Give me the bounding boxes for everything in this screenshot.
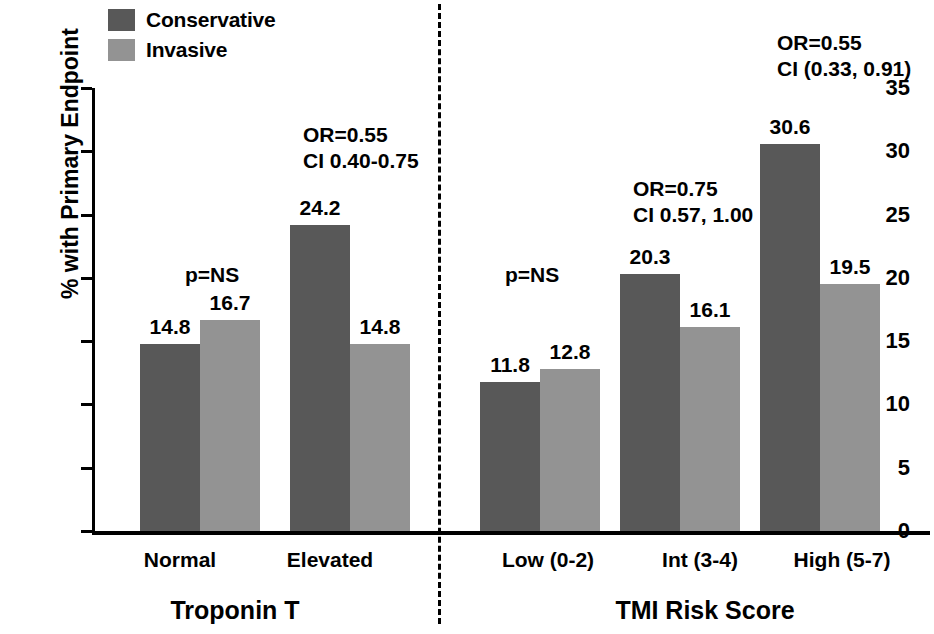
panel-divider [438, 4, 441, 624]
annotation-elevated-ci: CI 0.40-0.75 [303, 148, 419, 174]
y-tick-5 [81, 467, 92, 470]
y-tick-15 [81, 340, 92, 343]
y-tick-10 [81, 403, 92, 406]
bar-value-normal-invasive: 16.7 [188, 292, 272, 313]
category-label-normal: Normal [100, 548, 260, 572]
annotation-low: p=NS [505, 262, 559, 288]
bar-elevated-invasive [350, 344, 410, 531]
y-tick-25 [81, 214, 92, 217]
bar-high-invasive [820, 284, 880, 531]
bar-value-elevated-conservative: 24.2 [278, 197, 362, 218]
legend-item-invasive: Invasive [108, 38, 276, 62]
bar-normal-invasive [200, 320, 260, 531]
annotation-int-ci: CI 0.57, 1.00 [633, 202, 753, 228]
bar-normal-conservative [140, 344, 200, 531]
chart-legend: Conservative Invasive [108, 8, 276, 62]
y-axis-title: % with Primary Endpoint [57, 14, 84, 314]
y-tick-0 [81, 530, 92, 533]
y-tick-label-25: 25 [850, 204, 910, 226]
bar-value-high-invasive: 19.5 [808, 256, 892, 277]
annotation-high-ci: CI (0.33, 0.91) [777, 56, 911, 82]
annotation-normal: p=NS [185, 262, 239, 288]
legend-item-conservative: Conservative [108, 8, 276, 32]
category-label-elevated: Elevated [250, 548, 410, 572]
bar-elevated-conservative [290, 225, 350, 531]
plot-area: 05101520253035 14.816.724.214.811.812.82… [92, 88, 930, 534]
legend-label-invasive: Invasive [146, 39, 227, 61]
x-axis-line [92, 531, 930, 535]
annotation-int-or: OR=0.75 [633, 176, 718, 202]
panel-title-tmi: TMI Risk Score [540, 596, 870, 624]
bar-value-elevated-invasive: 14.8 [338, 316, 422, 337]
bar-chart-figure: Conservative Invasive % with Primary End… [0, 0, 934, 634]
bar-value-low-invasive: 12.8 [528, 341, 612, 362]
legend-swatch-conservative [108, 9, 135, 31]
bar-int-invasive [680, 327, 740, 531]
category-label-high: High (5-7) [752, 548, 932, 572]
y-tick-30 [81, 150, 92, 153]
y-axis-line [92, 88, 95, 534]
bar-value-int-conservative: 20.3 [608, 246, 692, 267]
annotation-elevated-or: OR=0.55 [303, 122, 388, 148]
annotation-high-or: OR=0.55 [777, 30, 862, 56]
y-tick-20 [81, 277, 92, 280]
y-tick-35 [81, 87, 92, 90]
legend-swatch-invasive [108, 39, 135, 61]
bar-value-high-conservative: 30.6 [748, 116, 832, 137]
panel-title-troponin: Troponin T [110, 596, 360, 624]
bar-low-invasive [540, 369, 600, 531]
bar-value-int-invasive: 16.1 [668, 299, 752, 320]
bar-low-conservative [480, 382, 540, 531]
bar-high-conservative [760, 144, 820, 531]
legend-label-conservative: Conservative [146, 9, 276, 31]
y-tick-label-30: 30 [850, 140, 910, 162]
